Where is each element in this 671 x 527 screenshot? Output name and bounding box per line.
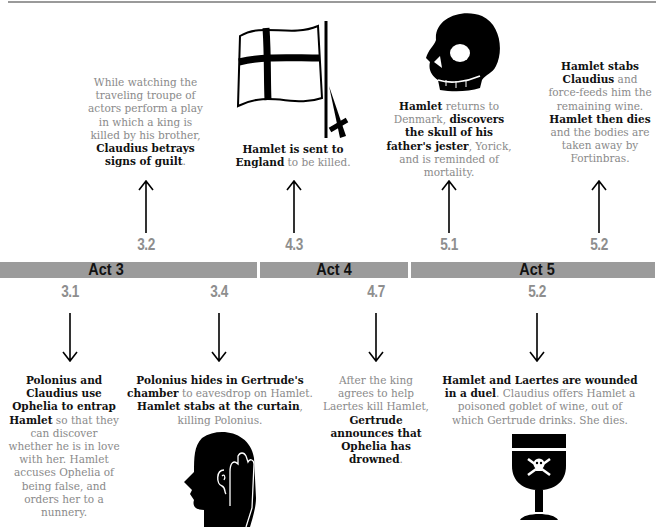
act-bar-act-3 — [0, 262, 257, 278]
scene-label-3-1: 3.1 — [61, 282, 79, 302]
event-text-5-2-bottom: Hamlet and Laertes are wounded in a duel… — [442, 374, 638, 427]
event-text-bold: Hamlet — [399, 100, 442, 112]
scene-label-5-2-bottom: 5.2 — [528, 282, 546, 302]
arrow-up-icon — [137, 180, 155, 234]
event-text-3-1: Polonius and Claudius use Ophelia to ent… — [8, 374, 120, 519]
event-text-regular: to be killed. — [284, 156, 350, 168]
event-text-3-4: Polonius hides in Gertrude's chamber to … — [124, 374, 316, 427]
scene-label-4-3: 4.3 — [285, 235, 303, 255]
event-text-bold: Hamlet then dies — [549, 113, 650, 125]
event-text-regular: to eavesdrop on Hamlet. — [179, 387, 313, 399]
event-text-5-2-top: Hamlet stabs Claudius and force-feeds hi… — [548, 60, 652, 166]
arrow-up-icon — [590, 180, 608, 234]
act-label-4: Act 4 — [316, 261, 351, 279]
arrow-up-icon — [440, 180, 458, 234]
act-label-3: Act 3 — [88, 261, 123, 279]
event-text-5-1: Hamlet returns to Denmark, discovers the… — [384, 100, 514, 179]
scene-label-5-1: 5.1 — [440, 235, 458, 255]
event-text-bold: Gertrude announces that Ophelia has drow… — [330, 414, 421, 466]
event-text-regular: and the bodies are taken away by Fortinb… — [550, 126, 649, 164]
skull-icon — [422, 10, 502, 92]
event-text-bold: Hamlet stabs at the curtain — [137, 400, 299, 412]
arrow-down-icon — [61, 312, 79, 362]
event-text-regular: . — [183, 155, 186, 167]
flag-and-dagger-icon — [234, 18, 349, 140]
event-text-4-7: After the king agrees to help Laertes ki… — [323, 374, 429, 466]
scene-label-3-4: 3.4 — [210, 282, 228, 302]
arrow-up-icon — [285, 180, 303, 234]
event-text-bold: Claudius betrays signs of guilt — [96, 142, 195, 167]
event-text-4-3: Hamlet is sent to England to be killed. — [232, 143, 354, 169]
event-text-regular: so that they can discover whether he is … — [8, 414, 119, 518]
arrow-down-icon — [210, 312, 228, 362]
arrow-down-icon — [528, 312, 546, 362]
top-divider — [8, 1, 656, 3]
event-text-regular: While watching the traveling troupe of a… — [88, 76, 203, 141]
eavesdropping-head-icon — [180, 428, 260, 527]
event-text-regular: . — [400, 453, 403, 465]
scene-label-3-2: 3.2 — [137, 235, 155, 255]
scene-label-4-7: 4.7 — [367, 282, 385, 302]
act-label-5: Act 5 — [519, 261, 554, 279]
arrow-down-icon — [367, 312, 385, 362]
scene-label-5-2-top: 5.2 — [590, 235, 608, 255]
poisoned-goblet-icon — [510, 432, 568, 522]
event-text-3-2: While watching the traveling troupe of a… — [88, 76, 203, 168]
event-text-regular: After the king agrees to help Laertes ki… — [323, 374, 429, 412]
